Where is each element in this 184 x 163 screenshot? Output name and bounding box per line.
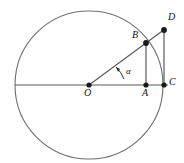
point-label-O: O: [84, 88, 91, 98]
point-dot-D: [161, 27, 167, 33]
angle-label-alpha: α: [126, 67, 131, 76]
point-label-C: C: [169, 77, 176, 87]
point-label-D: D: [168, 12, 175, 22]
point-dot-B: [143, 40, 149, 46]
geometry-canvas: [0, 0, 184, 163]
point-label-A: A: [142, 88, 148, 98]
point-dot-C: [161, 82, 166, 87]
geometry-figure: O A B C D α: [0, 0, 184, 163]
point-label-B: B: [132, 30, 138, 40]
segment-OD: [89, 29, 165, 85]
